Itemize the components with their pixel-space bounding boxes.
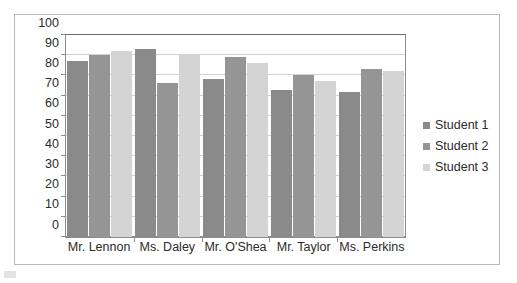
bar[interactable] [339, 92, 360, 237]
bar[interactable] [247, 63, 268, 237]
bar[interactable] [293, 75, 314, 237]
y-axis-tick-label: 60 [45, 97, 59, 110]
x-axis-category-label: Ms. Daley [133, 241, 201, 255]
y-axis-tick-label: 20 [45, 178, 59, 191]
y-axis-tick-mark [61, 34, 66, 35]
legend-swatch-icon [423, 122, 430, 129]
bar-group [134, 35, 202, 237]
y-axis-tick-mark [61, 216, 66, 217]
y-axis-tick-mark [61, 236, 66, 237]
bar[interactable] [111, 51, 132, 237]
bar[interactable] [89, 55, 110, 237]
chart-frame: 1009080706050403020100 Mr. LennonMs. Dal… [14, 14, 500, 265]
legend-swatch-icon [423, 143, 430, 150]
legend-label: Student 3 [435, 161, 489, 174]
legend-item[interactable]: Student 3 [423, 157, 499, 178]
chart-legend: Student 1Student 2Student 3 [423, 115, 499, 178]
bar[interactable] [135, 49, 156, 237]
y-axis-tick-label: 40 [45, 137, 59, 150]
bar[interactable] [383, 71, 404, 237]
y-axis-tick-label: 30 [45, 158, 59, 171]
bar-group [66, 35, 134, 237]
bar-group [269, 35, 337, 237]
bar[interactable] [157, 83, 178, 237]
bar-series-layer [66, 35, 405, 237]
bar[interactable] [179, 55, 200, 237]
y-axis-tick-label: 0 [52, 218, 59, 231]
legend-item[interactable]: Student 2 [423, 136, 499, 157]
y-axis-tick-mark [61, 135, 66, 136]
y-axis-tick-mark [61, 155, 66, 156]
bar[interactable] [203, 79, 224, 237]
y-axis-tick-mark [61, 74, 66, 75]
legend-label: Student 1 [435, 119, 489, 132]
bar[interactable] [67, 61, 88, 237]
y-axis-tick-label: 80 [45, 57, 59, 70]
scan-artifact [4, 271, 16, 278]
x-axis-category-label: Ms. Perkins [338, 241, 406, 255]
legend-swatch-icon [423, 164, 430, 171]
bar[interactable] [315, 81, 336, 237]
x-axis-category-label: Mr. Taylor [270, 241, 338, 255]
bar-group [202, 35, 270, 237]
y-axis-tick-mark [61, 175, 66, 176]
bar[interactable] [225, 57, 246, 237]
y-axis-tick-mark [61, 54, 66, 55]
x-axis-category-labels: Mr. LennonMs. DaleyMr. O'SheaMr. TaylorM… [65, 241, 406, 255]
x-axis-category-label: Mr. O'Shea [201, 241, 269, 255]
y-axis-tick-label: 10 [45, 198, 59, 211]
legend-label: Student 2 [435, 140, 489, 153]
y-axis-tick-mark [61, 196, 66, 197]
legend-item[interactable]: Student 1 [423, 115, 499, 136]
bar[interactable] [271, 90, 292, 237]
y-axis-tick-label: 70 [45, 77, 59, 90]
plot-area: 1009080706050403020100 [65, 34, 406, 238]
bar-group [337, 35, 405, 237]
x-axis-category-label: Mr. Lennon [65, 241, 133, 255]
y-axis-tick-label: 100 [38, 16, 59, 29]
y-axis-tick-label: 90 [45, 36, 59, 49]
y-axis-tick-label: 50 [45, 117, 59, 130]
bar[interactable] [361, 69, 382, 237]
y-axis-tick-mark [61, 115, 66, 116]
y-axis-tick-mark [61, 95, 66, 96]
